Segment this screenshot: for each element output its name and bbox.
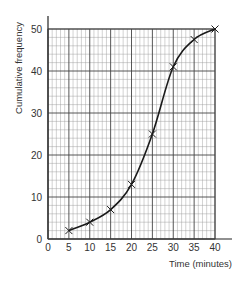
x-tick-label: 10 — [84, 242, 96, 253]
y-tick-label: 40 — [31, 66, 43, 77]
x-tick-label: 25 — [147, 242, 159, 253]
x-tick-label: 30 — [168, 242, 180, 253]
cumulative-frequency-chart: 0510152025303540 01020304050 Time (minut… — [0, 0, 247, 281]
y-tick-label: 0 — [36, 234, 42, 245]
x-tick-labels: 0510152025303540 — [45, 242, 221, 253]
x-tick-label: 20 — [126, 242, 138, 253]
x-tick-label: 15 — [105, 242, 117, 253]
y-axis-label: Cumulative frequency — [13, 22, 24, 114]
x-tick-label: 35 — [189, 242, 201, 253]
x-tick-label: 5 — [66, 242, 72, 253]
y-tick-label: 10 — [31, 192, 43, 203]
y-tick-label: 50 — [31, 24, 43, 35]
y-tick-labels: 01020304050 — [31, 24, 43, 245]
y-tick-label: 30 — [31, 108, 43, 119]
x-tick-label: 40 — [209, 242, 221, 253]
x-axis-label: Time (minutes) — [169, 258, 232, 269]
x-tick-label: 0 — [45, 242, 51, 253]
y-tick-label: 20 — [31, 150, 43, 161]
